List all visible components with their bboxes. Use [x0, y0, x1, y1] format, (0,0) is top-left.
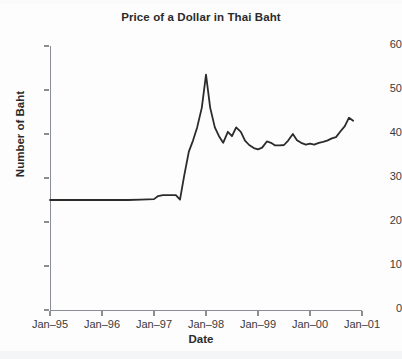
data-series-layer: [0, 0, 402, 359]
exchange-rate-line: [50, 75, 353, 200]
chart-figure: Price of a Dollar in Thai Baht Number of…: [0, 0, 402, 359]
bottom-background-band: [0, 351, 402, 359]
